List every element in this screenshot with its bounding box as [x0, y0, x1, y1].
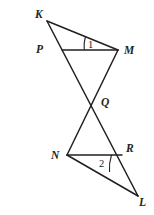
angle-2-arc: [109, 155, 111, 172]
vertex-label-N: N: [50, 149, 60, 161]
vertex-label-R: R: [125, 142, 134, 154]
vertex-label-M: M: [123, 44, 135, 56]
vertex-label-P: P: [36, 43, 44, 55]
vertex-label-L: L: [138, 196, 146, 208]
angle-label-2: 2: [99, 158, 104, 169]
angle-label-1: 1: [88, 39, 93, 50]
geometry-figure: K P M Q N R L 1 2: [0, 0, 154, 215]
angle-1-arc: [84, 37, 85, 51]
vertex-label-Q: Q: [101, 96, 109, 108]
segment-KM: [47, 21, 118, 50]
vertex-label-K: K: [34, 8, 44, 20]
geometry-diagram: K P M Q N R L 1 2: [0, 0, 154, 215]
segment-MN: [67, 50, 118, 155]
